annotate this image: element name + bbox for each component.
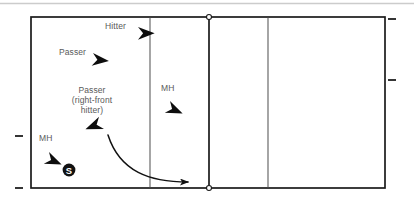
- passer-left-label: Passer: [59, 47, 86, 57]
- setter-marker: S: [63, 164, 76, 177]
- net-post-top-icon: [207, 15, 212, 20]
- middle-hitter-back-label: MH: [39, 133, 52, 143]
- hitter-label: Hitter: [105, 21, 126, 31]
- passer-rf-line-2: (right-front: [60, 95, 124, 105]
- volleyball-court-diagram: S Hitter Passer Passer (right-front hitt…: [0, 0, 414, 207]
- passer-right-front-hitter-label: Passer (right-front hitter): [60, 85, 124, 115]
- passer-rf-line-1: Passer: [60, 85, 124, 95]
- setter-label: S: [66, 165, 72, 176]
- passer-rf-line-3: hitter): [60, 105, 124, 115]
- middle-hitter-front-label: MH: [161, 83, 174, 93]
- net-post-bottom-icon: [207, 186, 212, 191]
